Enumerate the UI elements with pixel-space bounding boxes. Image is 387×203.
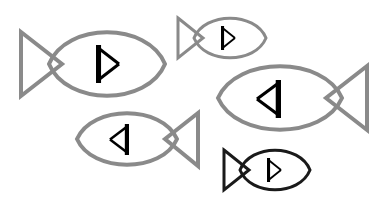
fish-figure-canvas — [0, 0, 387, 203]
fish-figure-svg — [0, 0, 387, 203]
